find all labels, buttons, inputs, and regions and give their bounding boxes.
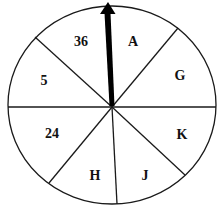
section-label-36: 36 — [74, 34, 88, 49]
section-label-h: H — [90, 168, 101, 183]
section-label-k: K — [177, 127, 188, 142]
section-label-24: 24 — [45, 126, 59, 141]
section-label-a: A — [128, 34, 139, 49]
spinner-diagram: 36 A G K J H 24 5 — [0, 0, 221, 209]
section-label-5: 5 — [41, 73, 48, 88]
section-label-j: J — [142, 168, 149, 183]
section-label-g: G — [175, 68, 186, 83]
